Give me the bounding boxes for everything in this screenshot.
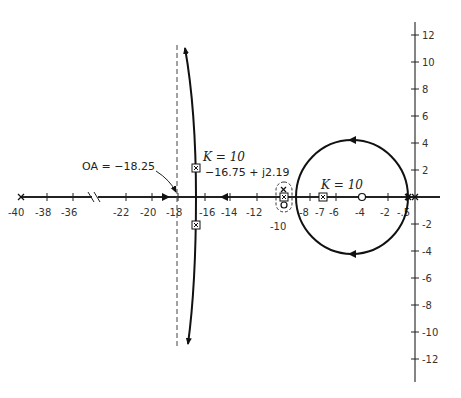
svg-text:-14: -14 bbox=[221, 207, 237, 218]
boxed-x-minus7-icon bbox=[319, 193, 327, 201]
boxed-x-minus10-icon bbox=[280, 193, 288, 201]
k-label-right: K = 10 bbox=[320, 178, 363, 192]
root-locus-plot: -40 -38 -36 -22 -20 -18 -16 -14 -12 -10 … bbox=[0, 0, 461, 398]
zero-minus-4-icon bbox=[359, 194, 366, 201]
svg-text:-8: -8 bbox=[422, 300, 432, 311]
imaginary-axis bbox=[411, 22, 419, 382]
k-label-left: K = 10 bbox=[202, 150, 245, 164]
svg-text:-12: -12 bbox=[246, 207, 262, 218]
circle-arrow-bottom bbox=[348, 250, 356, 258]
svg-text:-10: -10 bbox=[422, 327, 438, 338]
boxed-x-upper-icon bbox=[192, 164, 200, 172]
real-axis bbox=[21, 192, 440, 202]
svg-text:-40: -40 bbox=[8, 207, 24, 218]
svg-text:-22: -22 bbox=[113, 207, 129, 218]
svg-text:6: 6 bbox=[422, 111, 428, 122]
svg-text:-2: -2 bbox=[380, 207, 390, 218]
svg-text:-6: -6 bbox=[329, 207, 339, 218]
svg-text:-38: -38 bbox=[35, 207, 51, 218]
svg-text:10: 10 bbox=[422, 57, 435, 68]
asymptote-pointer bbox=[156, 171, 176, 192]
real-axis-arrow-left bbox=[220, 193, 228, 201]
svg-text:-4: -4 bbox=[355, 207, 365, 218]
svg-text:-10: -10 bbox=[270, 221, 286, 232]
svg-text:8: 8 bbox=[422, 84, 428, 95]
svg-text:-20: -20 bbox=[140, 207, 156, 218]
pole-minus-10-icon bbox=[281, 187, 286, 192]
svg-text:-.5: -.5 bbox=[397, 207, 410, 218]
svg-text:-6: -6 bbox=[422, 273, 432, 284]
circle-arrow-top bbox=[348, 136, 356, 144]
asymptote-label: OA = −18.25 bbox=[82, 160, 155, 173]
svg-text:2: 2 bbox=[422, 165, 428, 176]
svg-text:-2: -2 bbox=[422, 219, 432, 230]
x-tick-labels: -40 -38 -36 -22 -20 -18 -16 -14 -12 -10 … bbox=[8, 207, 410, 232]
svg-text:12: 12 bbox=[422, 30, 435, 41]
svg-text:-12: -12 bbox=[422, 354, 438, 365]
svg-text:-16: -16 bbox=[199, 207, 215, 218]
svg-text:-36: -36 bbox=[61, 207, 77, 218]
zero-minus-10-icon bbox=[281, 202, 287, 208]
svg-text:-7: -7 bbox=[315, 207, 325, 218]
boxed-x-lower-icon bbox=[192, 221, 200, 229]
svg-text:4: 4 bbox=[422, 138, 428, 149]
svg-text:-18: -18 bbox=[166, 207, 182, 218]
svg-text:-4: -4 bbox=[422, 246, 432, 257]
real-axis-arrow-right bbox=[162, 193, 170, 201]
locus-branch-lower bbox=[188, 197, 196, 344]
svg-text:-8: -8 bbox=[299, 207, 309, 218]
locus-branch-upper bbox=[185, 48, 196, 197]
closed-loop-pole-value: −16.75 + j2.19 bbox=[205, 166, 289, 179]
